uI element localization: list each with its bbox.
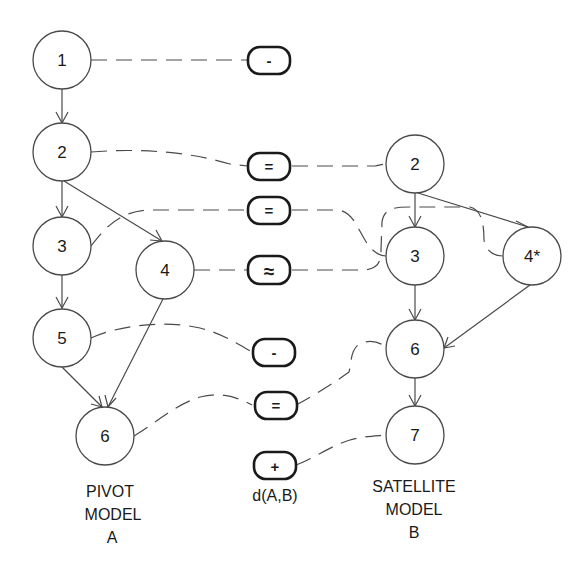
svg-text:=: = [265, 158, 274, 175]
satellite-caption-line-3: B [409, 524, 420, 541]
pivot-caption-line-2: MODEL [85, 506, 142, 523]
pivot-caption-line-1: PIVOT [86, 483, 134, 500]
svg-text:4: 4 [160, 261, 169, 280]
edge-a4-a6 [108, 299, 163, 407]
link-a3-equal [91, 210, 248, 246]
svg-text:7: 7 [410, 426, 419, 445]
svg-text:-: - [267, 52, 272, 69]
satellite-node-2: 2 [386, 135, 444, 193]
svg-text:=: = [272, 397, 281, 414]
op-add-7: + [254, 452, 296, 479]
pivot-node-6: 6 [76, 407, 134, 465]
satellite-node-6: 6 [386, 320, 444, 378]
svg-text:≈: ≈ [264, 261, 275, 282]
edge-a5-a6 [62, 367, 102, 407]
satellite-caption-line-1: SATELLITE [372, 478, 455, 495]
svg-text:6: 6 [100, 427, 109, 446]
svg-text:=: = [265, 202, 274, 219]
link-equal-b6 [296, 341, 386, 405]
pivot-caption-line-3: A [107, 529, 118, 546]
svg-text:2: 2 [57, 143, 66, 162]
satellite-node-7: 7 [386, 406, 444, 464]
op-equal-3: = [248, 197, 290, 224]
svg-text:6: 6 [410, 340, 419, 359]
pivot-node-1: 1 [33, 31, 91, 89]
satellite-node-4-star: 4* [503, 227, 561, 285]
link-a2-equal [91, 151, 248, 167]
svg-text:-: - [272, 344, 277, 361]
svg-text:+: + [271, 458, 280, 475]
model-diff-diagram: 1 2 3 4 5 6 PIVOT MODEL A 2 3 4* 6 7 SAT… [0, 0, 581, 574]
svg-text:2: 2 [410, 155, 419, 174]
pivot-model: 1 2 3 4 5 6 PIVOT MODEL A [33, 31, 194, 546]
satellite-caption-line-2: MODEL [386, 501, 443, 518]
pivot-node-5: 5 [33, 309, 91, 367]
op-delete-5: - [253, 339, 295, 366]
op-equal-6: = [255, 392, 297, 419]
pivot-node-2: 2 [33, 123, 91, 181]
svg-text:3: 3 [57, 237, 66, 256]
link-a5-delete [91, 324, 252, 352]
link-equal-b2 [292, 164, 386, 166]
svg-text:1: 1 [57, 51, 66, 70]
satellite-node-3: 3 [386, 227, 444, 285]
op-similar-4: ≈ [248, 256, 290, 284]
edge-b2-b4 [418, 193, 528, 227]
edge-b4-b6 [444, 285, 530, 348]
op-equal-2: = [248, 153, 290, 180]
svg-text:5: 5 [57, 329, 66, 348]
pivot-node-3: 3 [33, 217, 91, 275]
diff-operations: - = = ≈ - = + d(A,B) [248, 47, 298, 504]
svg-text:3: 3 [410, 247, 419, 266]
svg-text:4*: 4* [524, 247, 540, 266]
satellite-model: 2 3 4* 6 7 SATELLITE MODEL B [372, 135, 561, 541]
link-add-b7 [296, 435, 386, 465]
op-delete-1: - [248, 47, 290, 74]
diff-caption: d(A,B) [252, 487, 297, 504]
link-a6-equal [134, 395, 252, 436]
pivot-node-4: 4 [136, 241, 194, 299]
link-equal-b3 [292, 210, 386, 256]
